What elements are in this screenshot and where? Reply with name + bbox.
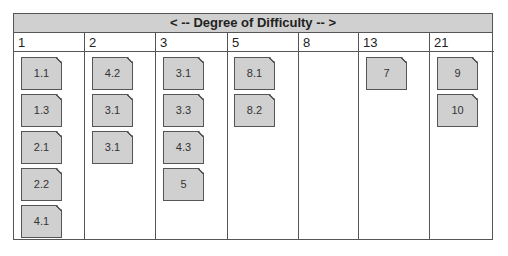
story-card[interactable]: 4.2 xyxy=(92,57,133,90)
story-card[interactable]: 3.1 xyxy=(92,94,133,127)
difficulty-board: < -- Degree of Difficulty -- > 1 1.1 1.3… xyxy=(13,13,493,240)
story-card[interactable]: 5 xyxy=(163,168,204,201)
column-header: 8 xyxy=(299,33,358,52)
story-card[interactable]: 1.3 xyxy=(21,94,62,127)
column-header: 1 xyxy=(14,33,84,52)
column-3: 3 3.1 3.3 4.3 5 xyxy=(156,33,228,239)
story-card[interactable]: 8.1 xyxy=(234,57,275,90)
story-card[interactable]: 4.3 xyxy=(163,131,204,164)
story-card[interactable]: 9 xyxy=(437,57,478,90)
column-5: 5 8.1 8.2 xyxy=(228,33,299,239)
story-card[interactable]: 8.2 xyxy=(234,94,275,127)
story-card[interactable]: 10 xyxy=(437,94,478,127)
column-13: 13 7 xyxy=(359,33,430,239)
column-header: 21 xyxy=(430,33,494,52)
column-header: 2 xyxy=(85,33,155,52)
column-header: 5 xyxy=(228,33,298,52)
story-card[interactable]: 3.3 xyxy=(163,94,204,127)
column-header: 13 xyxy=(359,33,429,52)
column-1: 1 1.1 1.3 2.1 2.2 4.1 xyxy=(14,33,85,239)
column-8: 8 xyxy=(299,33,359,239)
story-card[interactable]: 2.1 xyxy=(21,131,62,164)
column-2: 2 4.2 3.1 3.1 xyxy=(85,33,156,239)
story-card[interactable]: 3.1 xyxy=(92,131,133,164)
story-card[interactable]: 2.2 xyxy=(21,168,62,201)
story-card[interactable]: 7 xyxy=(366,57,407,90)
column-21: 21 9 10 xyxy=(430,33,494,239)
board-title: < -- Degree of Difficulty -- > xyxy=(14,14,492,33)
column-header: 3 xyxy=(156,33,227,52)
story-card[interactable]: 1.1 xyxy=(21,57,62,90)
story-card[interactable]: 3.1 xyxy=(163,57,204,90)
story-card[interactable]: 4.1 xyxy=(21,205,62,238)
